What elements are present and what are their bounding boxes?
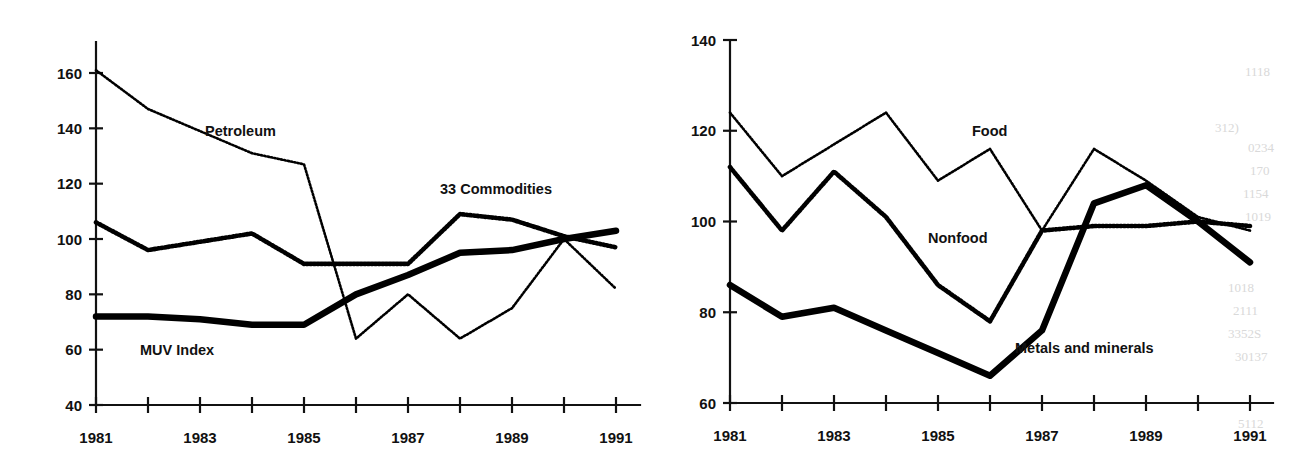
right-x-tick-label: 1987 bbox=[1025, 427, 1058, 444]
right-y-tick-label: 140 bbox=[691, 32, 716, 49]
left-y-tick-label: 40 bbox=[65, 397, 82, 414]
commodities-label: 33 Commodities bbox=[440, 181, 552, 197]
left-y-tick-label: 80 bbox=[65, 286, 82, 303]
right-y-tick-labels: 6080100120140 bbox=[691, 32, 716, 412]
bleed-text: 5112 bbox=[1238, 416, 1264, 432]
series-line-metals-and-minerals bbox=[730, 185, 1250, 376]
bleed-text: 30137 bbox=[1235, 349, 1268, 365]
left-y-tick-label: 60 bbox=[65, 341, 82, 358]
muv-index-label: MUV Index bbox=[140, 342, 214, 358]
bleed-text: 3352S bbox=[1228, 326, 1261, 342]
bleed-text: 1154 bbox=[1243, 186, 1269, 202]
left-y-tick-label: 100 bbox=[57, 231, 82, 248]
right-y-tick-label: 60 bbox=[699, 395, 716, 412]
left-chart-svg: 406080100120140160 198119831985198719891… bbox=[0, 0, 660, 471]
right-y-tick-label: 120 bbox=[691, 122, 716, 139]
left-x-tick-label: 1981 bbox=[79, 429, 112, 446]
bleed-text: 312) bbox=[1215, 120, 1239, 136]
left-y-tick-label: 120 bbox=[57, 175, 82, 192]
right-y-tick-label: 80 bbox=[699, 304, 716, 321]
left-y-tick-labels: 406080100120140160 bbox=[57, 65, 82, 414]
right-x-tick-label: 1981 bbox=[713, 427, 746, 444]
two-panel-line-chart-figure: 406080100120140160 198119831985198719891… bbox=[0, 0, 1311, 471]
right-y-tick-label: 100 bbox=[691, 213, 716, 230]
series-line-nonfood bbox=[730, 167, 1250, 321]
left-x-tick-label: 1983 bbox=[183, 429, 216, 446]
chart-panel-right: 6080100120140 198119831985198719891991 F… bbox=[660, 0, 1311, 471]
left-x-tick-label: 1991 bbox=[599, 429, 632, 446]
left-x-tick-label: 1985 bbox=[287, 429, 320, 446]
bleed-text: 1118 bbox=[1245, 64, 1270, 80]
right-x-tick-label: 1983 bbox=[817, 427, 850, 444]
food-label: Food bbox=[972, 123, 1007, 139]
bleed-text: 170 bbox=[1250, 163, 1270, 179]
bleed-text: 2111 bbox=[1233, 303, 1258, 319]
left-y-tick-label: 160 bbox=[57, 65, 82, 82]
left-x-tick-label: 1987 bbox=[391, 429, 424, 446]
bleed-text: 0234 bbox=[1248, 140, 1274, 156]
series-line-petroleum bbox=[96, 70, 616, 338]
right-series-group bbox=[730, 113, 1250, 376]
chart-panel-left: 406080100120140160 198119831985198719891… bbox=[0, 0, 660, 471]
bleed-text: 1018 bbox=[1228, 280, 1254, 296]
bleed-text: 1019 bbox=[1245, 209, 1271, 225]
metals-and-minerals-label: Metals and minerals bbox=[1015, 340, 1154, 356]
left-series-group bbox=[96, 70, 616, 338]
petroleum-label: Petroleum bbox=[205, 123, 276, 139]
right-chart-svg: 6080100120140 198119831985198719891991 F… bbox=[660, 0, 1311, 471]
series-line-33-commodities bbox=[96, 214, 616, 264]
left-x-tick-label: 1989 bbox=[495, 429, 528, 446]
nonfood-label: Nonfood bbox=[928, 230, 988, 246]
right-x-tick-label: 1985 bbox=[921, 427, 954, 444]
right-x-tick-labels: 198119831985198719891991 bbox=[713, 427, 1266, 444]
right-x-tick-label: 1989 bbox=[1129, 427, 1162, 444]
left-x-tick-labels: 198119831985198719891991 bbox=[79, 429, 632, 446]
left-y-tick-label: 140 bbox=[57, 120, 82, 137]
